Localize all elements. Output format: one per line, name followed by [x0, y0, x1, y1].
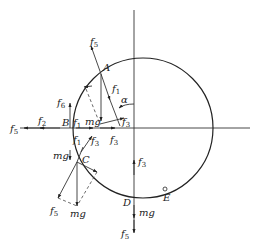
- label-b-f2: f2: [37, 115, 46, 128]
- point-b-label: B: [61, 117, 69, 128]
- force-a-f3: [100, 118, 124, 124]
- dashed-c-1: [77, 172, 97, 206]
- force-c-f5: [58, 162, 77, 198]
- alpha-label: α: [121, 94, 128, 105]
- force-a-short: [84, 86, 92, 87]
- label-c-f1: f1: [72, 134, 81, 147]
- force-diagram: A B C D E α f5 f1 f3 mg f6 f2 f5 f1 f3 f…: [0, 0, 254, 248]
- label-a-f1: f1: [111, 83, 120, 96]
- force-a-f1: [101, 74, 110, 100]
- point-c-label: C: [82, 154, 90, 165]
- label-a-f3: f3: [121, 116, 130, 129]
- label-c-mg-small: mg: [53, 150, 69, 161]
- label-b-f3: f3: [109, 134, 118, 147]
- label-d-mg: mg: [139, 207, 155, 218]
- point-a-label: A: [102, 62, 110, 73]
- point-e-marker: [163, 187, 167, 191]
- point-d-label: D: [122, 197, 131, 208]
- label-d-f5: f5: [120, 228, 129, 241]
- force-a-axis-line: [110, 100, 120, 126]
- label-c-f5: f5: [49, 205, 58, 218]
- label-a-mg: mg: [85, 116, 101, 127]
- point-e-label: E: [162, 192, 171, 203]
- label-b-f6: f6: [56, 97, 66, 110]
- label-c-f3: f3: [90, 135, 99, 148]
- dashed-c-2: [58, 198, 77, 206]
- force-a-f5: [91, 46, 101, 74]
- label-c-mg: mg: [70, 208, 86, 219]
- label-b-f5: f5: [9, 123, 18, 136]
- label-d-f3: f3: [137, 156, 146, 169]
- label-a-f5: f5: [89, 36, 98, 49]
